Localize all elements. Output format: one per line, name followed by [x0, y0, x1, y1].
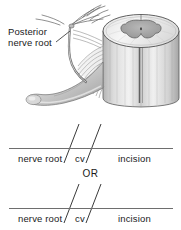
annotation-terms-1: nerve root cv incision: [9, 150, 173, 168]
spinal-cord-illustration: [0, 0, 181, 112]
callout-line-1: Posterior: [8, 26, 70, 37]
annotation-rule-1: [9, 148, 173, 149]
cut-nerve-filaments: [36, 5, 110, 26]
annotation-row-2: nerve root cv incision: [9, 178, 173, 230]
callout-line-2: nerve root: [8, 37, 70, 48]
annotation-term-cv: cv: [75, 212, 85, 226]
annotation-term-nerve-root: nerve root: [18, 212, 62, 226]
figure-container: Posterior nerve root nerve root cv incis…: [0, 0, 181, 230]
annotation-term-incision: incision: [118, 152, 151, 166]
spinal-cord-cylinder: [103, 15, 179, 108]
annotation-terms-2: nerve root cv incision: [9, 210, 173, 228]
annotation-term-incision: incision: [118, 212, 151, 226]
annotation-rule-2: [9, 208, 173, 209]
posterior-nerve-root-label: Posterior nerve root: [8, 26, 70, 48]
anterior-rootlets: [73, 30, 102, 48]
annotation-term-cv: cv: [75, 152, 85, 166]
annotation-term-nerve-root: nerve root: [18, 152, 62, 166]
